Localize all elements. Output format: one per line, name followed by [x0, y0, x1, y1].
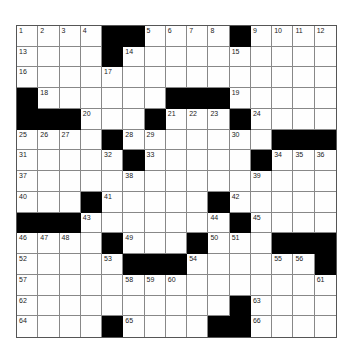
grid-cell[interactable] [251, 192, 272, 213]
grid-cell[interactable]: 61 [315, 275, 336, 296]
grid-cell[interactable]: 55 [272, 254, 293, 275]
grid-cell[interactable] [251, 233, 272, 254]
grid-cell[interactable] [123, 67, 144, 88]
grid-cell[interactable] [102, 213, 123, 234]
grid-cell[interactable] [230, 254, 251, 275]
grid-cell[interactable]: 12 [315, 26, 336, 47]
grid-cell[interactable]: 63 [251, 296, 272, 317]
grid-cell[interactable] [187, 150, 208, 171]
grid-cell[interactable]: 47 [38, 233, 59, 254]
grid-cell[interactable] [187, 316, 208, 337]
grid-cell[interactable]: 58 [123, 275, 144, 296]
grid-cell[interactable] [60, 88, 81, 109]
grid-cell[interactable] [38, 275, 59, 296]
grid-cell[interactable]: 32 [102, 150, 123, 171]
grid-cell[interactable]: 1 [17, 26, 38, 47]
grid-cell[interactable]: 9 [251, 26, 272, 47]
grid-cell[interactable] [38, 171, 59, 192]
grid-cell[interactable] [315, 316, 336, 337]
grid-cell[interactable]: 22 [187, 109, 208, 130]
grid-cell[interactable] [166, 233, 187, 254]
grid-cell[interactable]: 25 [17, 130, 38, 151]
grid-cell[interactable]: 18 [38, 88, 59, 109]
grid-cell[interactable]: 51 [230, 233, 251, 254]
grid-cell[interactable] [315, 47, 336, 68]
grid-cell[interactable] [60, 316, 81, 337]
grid-cell[interactable]: 33 [145, 150, 166, 171]
grid-cell[interactable] [60, 296, 81, 317]
grid-cell[interactable]: 37 [17, 171, 38, 192]
grid-cell[interactable]: 7 [187, 26, 208, 47]
grid-cell[interactable] [293, 171, 314, 192]
grid-cell[interactable] [293, 296, 314, 317]
grid-cell[interactable]: 15 [230, 47, 251, 68]
grid-cell[interactable]: 40 [17, 192, 38, 213]
grid-cell[interactable] [230, 150, 251, 171]
grid-cell[interactable] [60, 254, 81, 275]
grid-cell[interactable]: 56 [293, 254, 314, 275]
grid-cell[interactable] [251, 275, 272, 296]
grid-cell[interactable] [272, 88, 293, 109]
grid-cell[interactable]: 24 [251, 109, 272, 130]
grid-cell[interactable] [145, 47, 166, 68]
grid-cell[interactable] [81, 67, 102, 88]
grid-cell[interactable]: 52 [17, 254, 38, 275]
grid-cell[interactable] [123, 192, 144, 213]
grid-cell[interactable] [166, 296, 187, 317]
grid-cell[interactable] [272, 213, 293, 234]
grid-cell[interactable] [208, 130, 229, 151]
grid-cell[interactable]: 14 [123, 47, 144, 68]
grid-cell[interactable] [208, 254, 229, 275]
grid-cell[interactable] [81, 233, 102, 254]
grid-cell[interactable]: 6 [166, 26, 187, 47]
grid-cell[interactable] [145, 171, 166, 192]
grid-cell[interactable] [145, 88, 166, 109]
grid-cell[interactable] [145, 296, 166, 317]
grid-cell[interactable] [293, 192, 314, 213]
grid-cell[interactable] [315, 296, 336, 317]
grid-cell[interactable] [208, 150, 229, 171]
grid-cell[interactable] [187, 275, 208, 296]
grid-cell[interactable] [102, 88, 123, 109]
grid-cell[interactable] [272, 67, 293, 88]
grid-cell[interactable]: 44 [208, 213, 229, 234]
grid-cell[interactable]: 31 [17, 150, 38, 171]
grid-cell[interactable] [187, 192, 208, 213]
grid-cell[interactable] [208, 67, 229, 88]
grid-cell[interactable] [81, 47, 102, 68]
grid-cell[interactable]: 16 [17, 67, 38, 88]
grid-cell[interactable] [145, 233, 166, 254]
grid-cell[interactable] [315, 67, 336, 88]
grid-cell[interactable] [166, 192, 187, 213]
grid-cell[interactable]: 4 [81, 26, 102, 47]
grid-cell[interactable]: 8 [208, 26, 229, 47]
grid-cell[interactable] [38, 67, 59, 88]
grid-cell[interactable]: 62 [17, 296, 38, 317]
grid-cell[interactable] [208, 171, 229, 192]
grid-cell[interactable] [251, 254, 272, 275]
grid-cell[interactable]: 23 [208, 109, 229, 130]
grid-cell[interactable]: 48 [60, 233, 81, 254]
grid-cell[interactable] [187, 213, 208, 234]
grid-cell[interactable] [81, 254, 102, 275]
grid-cell[interactable] [251, 67, 272, 88]
grid-cell[interactable] [315, 192, 336, 213]
grid-cell[interactable] [187, 67, 208, 88]
grid-cell[interactable]: 20 [81, 109, 102, 130]
grid-cell[interactable]: 36 [315, 150, 336, 171]
grid-cell[interactable] [272, 296, 293, 317]
grid-cell[interactable] [293, 316, 314, 337]
grid-cell[interactable] [293, 213, 314, 234]
grid-cell[interactable] [272, 109, 293, 130]
grid-cell[interactable] [123, 109, 144, 130]
grid-cell[interactable] [208, 296, 229, 317]
grid-cell[interactable] [315, 171, 336, 192]
grid-cell[interactable]: 19 [230, 88, 251, 109]
grid-cell[interactable]: 59 [145, 275, 166, 296]
grid-cell[interactable] [230, 275, 251, 296]
grid-cell[interactable] [208, 47, 229, 68]
grid-cell[interactable] [272, 47, 293, 68]
grid-cell[interactable] [187, 171, 208, 192]
grid-cell[interactable]: 10 [272, 26, 293, 47]
grid-cell[interactable] [38, 316, 59, 337]
